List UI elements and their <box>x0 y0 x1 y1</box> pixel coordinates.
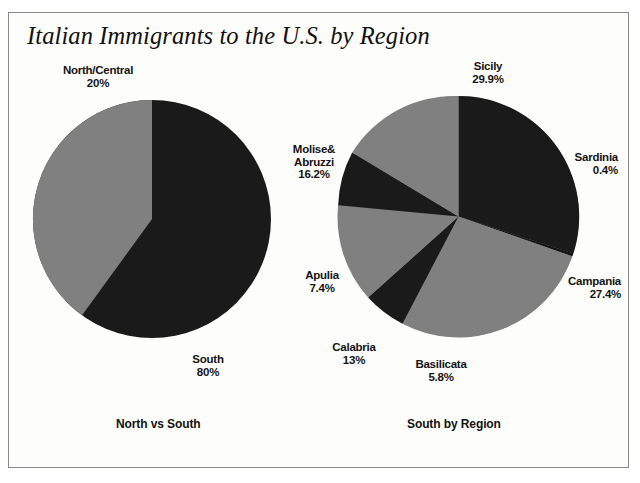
label-campania: Campania 27.4% <box>509 275 621 300</box>
label-sardinia-value: 0.4% <box>519 164 618 177</box>
label-apulia-value: 7.4% <box>291 282 353 295</box>
label-basilicata-name: Basilicata <box>400 358 482 371</box>
label-molise-abruzzi-name-line1: Molise& <box>275 143 353 156</box>
label-apulia-name: Apulia <box>291 269 353 282</box>
pie-left-svg <box>32 99 272 339</box>
label-sardinia: Sardinia 0.4% <box>519 151 618 176</box>
label-molise-abruzzi-value: 16.2% <box>275 168 353 181</box>
label-north-central-value: 20% <box>36 77 160 90</box>
pie-chart-north-vs-south <box>32 99 272 339</box>
label-campania-name: Campania <box>509 275 621 288</box>
label-sicily-name: Sicily <box>447 60 529 73</box>
label-sardinia-name: Sardinia <box>519 151 618 164</box>
label-basilicata-value: 5.8% <box>400 371 482 384</box>
figure-root: Italian Immigrants to the U.S. by Region… <box>0 0 640 483</box>
label-north-central: North/Central 20% <box>36 64 160 89</box>
caption-north-vs-south: North vs South <box>116 417 201 431</box>
label-molise-abruzzi-name-line2: Abruzzi <box>275 156 353 169</box>
pie-right-svg <box>337 95 580 338</box>
label-apulia: Apulia 7.4% <box>291 269 353 294</box>
pie-chart-south-by-region <box>337 95 580 338</box>
label-calabria-value: 13% <box>318 354 390 367</box>
label-molise-abruzzi: Molise& Abruzzi 16.2% <box>275 143 353 181</box>
label-calabria: Calabria 13% <box>318 341 390 366</box>
label-south-value: 80% <box>175 366 241 379</box>
label-south: South 80% <box>175 353 241 378</box>
caption-south-by-region: South by Region <box>407 417 501 431</box>
label-basilicata: Basilicata 5.8% <box>400 358 482 383</box>
label-south-name: South <box>175 353 241 366</box>
label-sicily: Sicily 29.9% <box>447 60 529 85</box>
figure-title: Italian Immigrants to the U.S. by Region <box>27 22 430 50</box>
label-campania-value: 27.4% <box>509 288 621 301</box>
label-sicily-value: 29.9% <box>447 73 529 86</box>
label-calabria-name: Calabria <box>318 341 390 354</box>
label-north-central-name: North/Central <box>36 64 160 77</box>
